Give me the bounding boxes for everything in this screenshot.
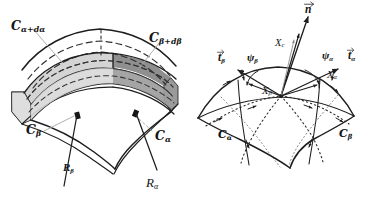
leader-c-alpha-plus-dalpha	[33, 29, 62, 62]
tick-arrow-mid-left	[248, 106, 256, 109]
vector-x-alpha	[281, 85, 317, 96]
valley-left-edge	[31, 120, 115, 169]
vector-t-beta	[238, 70, 281, 96]
leader-c-beta	[44, 116, 74, 131]
curve-param-dotted-right	[281, 96, 323, 162]
tick-arrow-mid-right	[304, 105, 312, 108]
vector-x-c	[281, 34, 299, 96]
curve-family-right-solid	[309, 79, 320, 164]
curve-family-left-solid	[238, 80, 249, 165]
left-figure-shell-element	[0, 0, 190, 209]
marker-point-alpha	[132, 109, 139, 117]
curve-c-alpha-interior	[198, 97, 354, 118]
valley-right-edge	[115, 112, 171, 169]
tick-arrow-ridge-right	[331, 86, 338, 92]
right-figure-surface-patch	[186, 0, 372, 209]
patch-edge-left-bottom	[198, 118, 290, 168]
radius-line-r-beta	[64, 115, 77, 186]
patch-edge-right-bottom	[290, 116, 354, 168]
diagram-canvas: Cα+dα Cβ+dβ Cβ Cα Rβ Rα	[0, 0, 372, 209]
